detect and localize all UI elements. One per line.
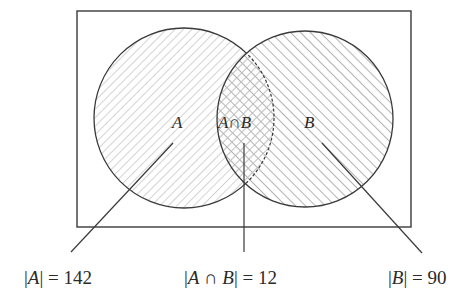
caption-intersection-value: | = 12 xyxy=(234,267,277,288)
caption-intersection-var: A ∩ B xyxy=(188,267,234,288)
label-b: B xyxy=(304,113,315,132)
caption-intersection: |A ∩ B| = 12 xyxy=(184,268,277,287)
caption-a: |A| = 142 xyxy=(24,268,92,287)
caption-b-value: | = 90 xyxy=(403,267,446,288)
caption-b: |B| = 90 xyxy=(388,268,446,287)
label-intersection: A∩B xyxy=(217,113,252,132)
venn-diagram: A A∩B B xyxy=(0,0,468,305)
caption-a-var: A xyxy=(28,267,40,288)
caption-a-value: | = 142 xyxy=(39,267,92,288)
caption-b-var: B xyxy=(392,267,404,288)
label-a: A xyxy=(171,113,183,132)
